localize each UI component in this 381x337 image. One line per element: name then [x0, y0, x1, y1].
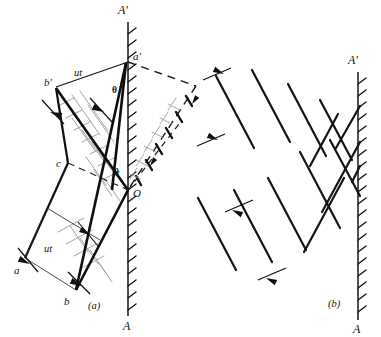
angle-label-theta-lower: θ — [114, 167, 119, 177]
panel-a-wall — [128, 22, 136, 316]
wavelength-marker-lower — [225, 200, 286, 285]
point-label-origin: O — [133, 187, 141, 199]
panel-a-wall-hatching — [128, 28, 136, 310]
panel-a-wall-top-label: A' — [117, 3, 128, 17]
distance-label-ut-upper: ut — [74, 67, 83, 78]
figure-root: A' A a' b' O c a b ut ut θ θ (a) — [0, 0, 381, 337]
wavelength-marker-upper — [197, 67, 231, 146]
panel-a-reflected-construction — [128, 62, 199, 190]
angle-label-theta-upper: θ — [112, 85, 117, 95]
panel-b-wall-bottom-label: A — [352, 322, 361, 336]
point-label-a-prime: a' — [133, 50, 142, 62]
point-label-c: c — [56, 157, 61, 169]
panel-a-wall-bottom-label: A — [122, 319, 131, 333]
panel-b-wall-top-label: A' — [347, 53, 358, 67]
panel-a-caption: (a) — [88, 300, 101, 312]
panel-b: A' A (b) — [197, 53, 366, 336]
panel-b-caption: (b) — [328, 298, 341, 310]
point-label-b: b — [64, 295, 70, 307]
panel-a: A' A a' b' O c a b ut ut θ θ (a) — [14, 3, 199, 333]
distance-label-ut-lower: ut — [44, 243, 53, 254]
point-label-a: a — [14, 264, 20, 276]
point-label-b-prime: b' — [44, 76, 53, 88]
panel-b-incident-wavefronts — [198, 70, 360, 270]
figure-canvas: A' A a' b' O c a b ut ut θ θ (a) — [0, 0, 381, 337]
